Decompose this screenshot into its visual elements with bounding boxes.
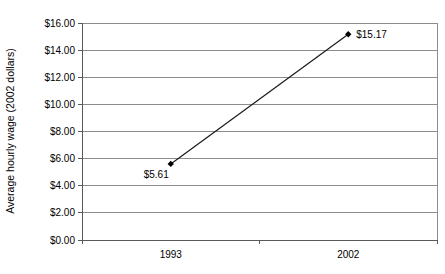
series-line [171, 34, 349, 164]
chart-canvas: $0.00$2.00$4.00$6.00$8.00$10.00$12.00$14… [0, 0, 445, 274]
data-point-label: $5.61 [144, 169, 169, 180]
wage-line-chart: Average hourly wage (2002 dollars) $0.00… [0, 0, 445, 274]
y-tick-label: $4.00 [50, 180, 75, 191]
y-tick-label: $0.00 [50, 235, 75, 246]
y-tick-label: $16.00 [44, 18, 75, 29]
y-tick-label: $14.00 [44, 45, 75, 56]
y-tick-label: $6.00 [50, 153, 75, 164]
x-category-label: 1993 [160, 249, 183, 260]
y-tick-label: $8.00 [50, 126, 75, 137]
y-tick-label: $12.00 [44, 72, 75, 83]
y-tick-label: $2.00 [50, 207, 75, 218]
y-tick-label: $10.00 [44, 99, 75, 110]
data-point-label: $15.17 [356, 29, 387, 40]
x-category-label: 2002 [337, 249, 360, 260]
